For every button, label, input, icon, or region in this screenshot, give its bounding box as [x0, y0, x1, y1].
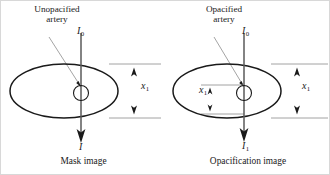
inner-dimension-arrowhead-down [208, 105, 213, 112]
inner-dimension-arrowhead-up [208, 88, 213, 95]
op-exit-beam-label: I1 [242, 140, 249, 151]
dimension-arrowhead-up [294, 68, 300, 77]
op-exit-beam-subscript: 1 [246, 145, 249, 152]
thickness-dimension-x1 [131, 68, 137, 115]
mask-artery-callout-label: Unopacified artery [21, 4, 93, 25]
body-cross-section-ellipse [173, 64, 281, 118]
op-inner-thickness-symbol: x [199, 84, 203, 95]
op-incident-beam-label: I0 [242, 25, 249, 36]
op-thickness-symbol: x [302, 80, 306, 91]
op-callout-line2: artery [188, 14, 260, 24]
opacification-panel-caption: Opacification image [178, 156, 318, 167]
body-cross-section-ellipse [10, 64, 118, 118]
dimension-arrowhead-down [131, 106, 137, 115]
figure-container: Unopacified artery I0 x1 I Mask image [0, 0, 330, 175]
op-exit-beam-symbol: I [242, 140, 245, 151]
mask-exit-beam-label: I [79, 141, 82, 152]
mask-panel-caption: Mask image [26, 156, 141, 167]
mask-thickness-symbol: x [141, 80, 145, 91]
panel-mask-image: Unopacified artery I0 x1 I Mask image [1, 1, 166, 175]
mask-thickness-subscript: 1 [146, 85, 149, 92]
op-thickness-label: x1 [302, 80, 310, 91]
mask-incident-beam-label: I0 [77, 25, 84, 36]
inner-thickness-dimension-x1 [208, 88, 213, 112]
op-inner-thickness-label: x1 [199, 84, 207, 95]
op-inner-thickness-subscript: 1 [204, 89, 207, 96]
op-incident-beam-symbol: I [242, 25, 245, 36]
thickness-dimension-x1 [294, 68, 300, 115]
op-thickness-subscript: 1 [307, 85, 310, 92]
mask-callout-line1: Unopacified [34, 4, 79, 14]
mask-incident-beam-subscript: 0 [81, 30, 84, 37]
mask-thickness-label: x1 [141, 80, 149, 91]
callout-leader-line [214, 37, 244, 87]
opacified-artery-callout-label: Opacified artery [188, 4, 260, 25]
callout-leader-line [49, 37, 81, 87]
dimension-arrowhead-down [294, 106, 300, 115]
mask-callout-line2: artery [21, 14, 93, 24]
mask-incident-beam-symbol: I [77, 25, 80, 36]
panel-opacification-image: Opacified artery I0 x1 x1 I1 Opacificati… [166, 1, 330, 175]
op-callout-line1: Opacified [206, 4, 242, 14]
dimension-arrowhead-up [131, 68, 137, 77]
mask-exit-beam-symbol: I [79, 141, 82, 152]
op-incident-beam-subscript: 0 [246, 30, 249, 37]
